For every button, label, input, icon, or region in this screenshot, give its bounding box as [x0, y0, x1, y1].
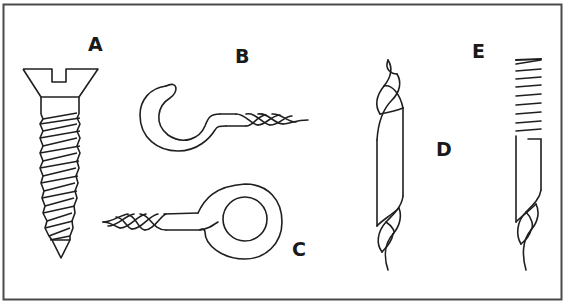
- fastener-illustration: A B C D E: [0, 0, 569, 305]
- screw-hook-icon: [140, 84, 308, 151]
- ruled-rod-icon: [516, 59, 541, 270]
- label-b: B: [235, 47, 249, 66]
- label-a: A: [88, 35, 103, 54]
- screw-eye-icon: [103, 184, 282, 259]
- label-d: D: [436, 140, 452, 159]
- label-c: C: [292, 240, 306, 259]
- wood-screw-icon: [23, 69, 98, 258]
- twisted-rod-icon: [377, 60, 403, 270]
- label-e: E: [472, 42, 485, 61]
